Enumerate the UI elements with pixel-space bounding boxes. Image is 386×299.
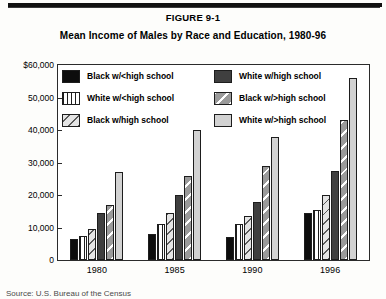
bar bbox=[175, 195, 183, 260]
y-axis-tick-label: 40,000 bbox=[28, 125, 54, 135]
bar bbox=[148, 234, 156, 260]
legend-swatch-icon bbox=[62, 92, 80, 105]
bar bbox=[331, 171, 339, 260]
bar bbox=[322, 195, 330, 260]
bar bbox=[193, 130, 201, 260]
bar bbox=[79, 236, 87, 260]
y-axis-tick-label: 30,000 bbox=[28, 158, 54, 168]
y-axis-tick-mark bbox=[57, 130, 62, 131]
legend-item: White w/>high school bbox=[214, 110, 326, 130]
y-axis-tick-label: $60,000 bbox=[23, 60, 54, 70]
bar bbox=[88, 229, 96, 260]
bar bbox=[304, 213, 312, 260]
y-axis-tick-label: 0 bbox=[49, 255, 54, 265]
legend-item: White w/high school bbox=[214, 66, 326, 86]
legend-item-label: Black w/>high school bbox=[239, 93, 326, 103]
y-axis-tick-label: 20,000 bbox=[28, 190, 54, 200]
y-axis-tick-mark bbox=[57, 228, 62, 229]
legend-swatch-icon bbox=[62, 70, 80, 83]
bar bbox=[115, 172, 123, 260]
y-axis-tick-mark bbox=[57, 98, 62, 99]
x-axis-tick-label: 1996 bbox=[320, 265, 340, 275]
page-title: Mean Income of Males by Race and Educati… bbox=[0, 30, 386, 41]
legend-item-label: White w/high school bbox=[239, 71, 321, 81]
bar bbox=[340, 120, 348, 260]
bar bbox=[262, 166, 270, 260]
bar bbox=[184, 176, 192, 261]
bar bbox=[253, 202, 261, 261]
bar bbox=[97, 213, 105, 260]
x-axis-tick-label: 1980 bbox=[87, 265, 107, 275]
legend-item-label: Black w/<high school bbox=[87, 71, 174, 81]
legend-item: White w/<high school bbox=[62, 88, 174, 108]
top-rule bbox=[8, 3, 382, 7]
y-axis-tick-label: 10,000 bbox=[28, 223, 54, 233]
legend-swatch-icon bbox=[214, 114, 232, 127]
bar bbox=[235, 224, 243, 260]
bar bbox=[70, 239, 78, 260]
legend-swatch-icon bbox=[214, 70, 232, 83]
y-axis-labels: $60,00050,00040,00030,00020,00010,0000 bbox=[0, 0, 54, 299]
x-axis-tick-label: 1990 bbox=[242, 265, 262, 275]
legend-item-label: Black w/high school bbox=[87, 115, 169, 125]
legend-item: Black w/<high school bbox=[62, 66, 174, 86]
x-axis-tick-label: 1985 bbox=[165, 265, 185, 275]
source-note: Source: U.S. Bureau of the Census bbox=[6, 289, 131, 298]
bar bbox=[157, 224, 165, 260]
bar bbox=[226, 237, 234, 260]
y-axis-tick-label: 50,000 bbox=[28, 93, 54, 103]
bar bbox=[313, 210, 321, 260]
legend-item-label: White w/>high school bbox=[239, 115, 326, 125]
bar bbox=[244, 216, 252, 260]
bar bbox=[271, 137, 279, 261]
legend-item: Black w/>high school bbox=[214, 88, 326, 108]
bar bbox=[106, 205, 114, 260]
y-axis-tick-mark bbox=[57, 195, 62, 196]
legend-item-label: White w/<high school bbox=[87, 93, 174, 103]
figure-number: FIGURE 9-1 bbox=[0, 12, 386, 23]
y-axis-tick-mark bbox=[57, 163, 62, 164]
bar bbox=[349, 78, 357, 260]
bar bbox=[166, 213, 174, 260]
legend-swatch-icon bbox=[214, 92, 232, 105]
legend-column-right: White w/high schoolBlack w/>high schoolW… bbox=[214, 66, 326, 132]
legend-column-left: Black w/<high schoolWhite w/<high school… bbox=[62, 66, 174, 132]
legend-item: Black w/high school bbox=[62, 110, 174, 130]
legend-swatch-icon bbox=[62, 114, 80, 127]
